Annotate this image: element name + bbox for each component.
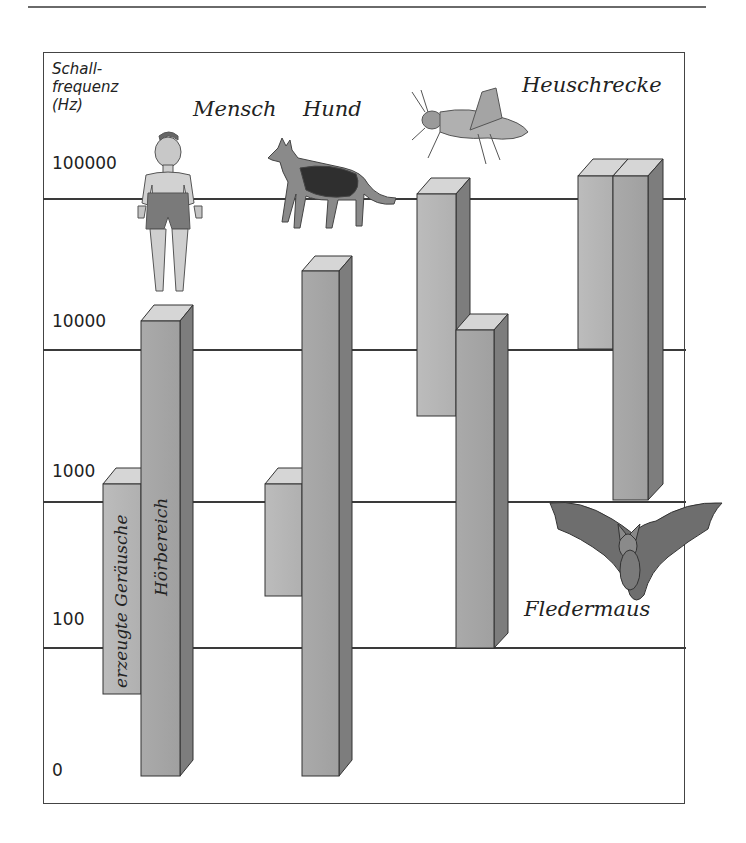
grasshopper-figure-icon bbox=[412, 88, 528, 164]
bat-figure-icon bbox=[550, 502, 722, 600]
human-figure-icon bbox=[138, 132, 202, 291]
bar-label-erzeugte-geraeusche: erzeugte Geräusche bbox=[111, 515, 131, 688]
bar-label-hoerbereich: Hörbereich bbox=[151, 498, 171, 596]
dog-figure-icon bbox=[268, 138, 396, 228]
bar-fledermaus-hoerbereich bbox=[613, 159, 663, 500]
bar-hund-hoerbereich bbox=[302, 256, 352, 776]
bar-heuschrecke-hoerbereich bbox=[456, 314, 508, 648]
chart-graphics bbox=[0, 0, 746, 843]
